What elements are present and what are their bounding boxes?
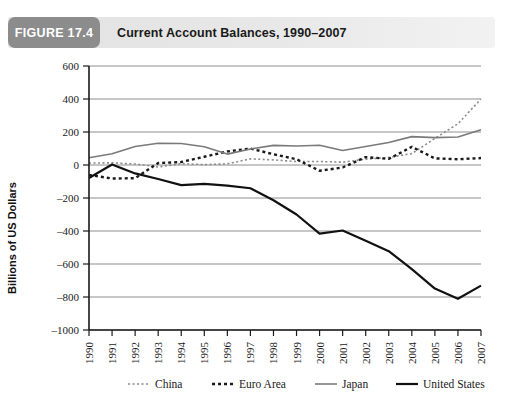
x-tick-label: 2006 — [452, 342, 464, 365]
x-axis-ticks: 1990199119921993199419951996199719981999… — [83, 330, 487, 364]
legend-label-euro-area[interactable]: Euro Area — [239, 378, 286, 390]
figure-number-badge: FIGURE 17.4 — [8, 17, 100, 48]
x-tick-label: 1990 — [83, 342, 95, 365]
series-line-japan — [89, 130, 481, 158]
chart-container: 6004002000–200–400–600–800–1000 19901991… — [0, 48, 505, 413]
x-tick-label: 2005 — [429, 342, 441, 365]
x-tick-label: 1998 — [267, 342, 279, 365]
x-tick-label: 1991 — [106, 342, 118, 364]
x-tick-label: 1993 — [152, 342, 164, 365]
figure-title-bar: FIGURE 17.4 Current Account Balances, 19… — [8, 17, 495, 48]
x-tick-label: 2002 — [360, 342, 372, 364]
legend-label-united-states[interactable]: United States — [423, 378, 485, 390]
y-tick-label: –1000 — [51, 324, 80, 336]
y-tick-label: –800 — [56, 291, 80, 303]
y-tick-label: –600 — [56, 258, 80, 270]
x-tick-label: 2004 — [406, 342, 418, 365]
x-tick-label: 1999 — [291, 342, 303, 365]
x-tick-label: 1994 — [175, 342, 187, 365]
y-tick-label: –400 — [56, 225, 80, 237]
legend-label-japan[interactable]: Japan — [342, 378, 368, 391]
x-tick-label: 1992 — [129, 342, 141, 364]
legend-label-china[interactable]: China — [155, 378, 182, 390]
chart-series-group — [89, 99, 481, 299]
series-line-euro-area — [89, 147, 481, 179]
y-tick-label: 400 — [63, 93, 80, 105]
line-chart: 6004002000–200–400–600–800–1000 19901991… — [0, 48, 505, 413]
y-tick-label: 200 — [63, 126, 80, 138]
x-tick-label: 2000 — [314, 342, 326, 365]
x-tick-label: 1997 — [244, 342, 256, 365]
y-tick-label: 0 — [74, 159, 80, 171]
series-line-united-states — [89, 165, 481, 299]
x-tick-label: 2001 — [337, 342, 349, 364]
y-axis-title: Billions of US Dollars — [6, 182, 18, 294]
series-line-china — [89, 99, 481, 167]
x-tick-label: 1995 — [198, 342, 210, 365]
x-tick-label: 1996 — [221, 342, 233, 365]
y-axis-title-text: Billions of US Dollars — [6, 182, 18, 294]
page-title: Current Account Balances, 1990–2007 — [117, 26, 347, 40]
x-tick-label: 2003 — [383, 342, 395, 365]
y-tick-label: –200 — [56, 192, 80, 204]
y-axis-ticks: 6004002000–200–400–600–800–1000 — [51, 60, 90, 336]
chart-gridlines — [89, 66, 481, 330]
chart-legend: ChinaEuro AreaJapanUnited States — [128, 378, 485, 391]
y-tick-label: 600 — [63, 60, 80, 72]
x-tick-label: 2007 — [475, 342, 487, 365]
